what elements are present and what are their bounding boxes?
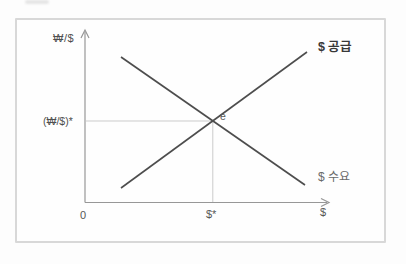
y-axis-label: ₩/$ (53, 33, 74, 44)
equilibrium-point-label: e (220, 111, 226, 122)
equilibrium-rate-label: (₩/$)* (43, 116, 73, 127)
supply-curve-label: $ 공급 (318, 41, 352, 54)
x-axis-label: $ (320, 207, 326, 218)
demand-curve-label: $ 수요 (318, 171, 350, 183)
origin-label: 0 (80, 210, 86, 221)
exchange-rate-diagram: ₩/$ (₩/$)* $ 공급 $ 수요 e 0 $* $ (0, 0, 406, 264)
equilibrium-quantity-label: $* (206, 209, 216, 220)
